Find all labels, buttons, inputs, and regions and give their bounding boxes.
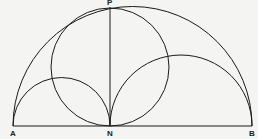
label-b: B <box>249 129 255 138</box>
semicircle-nb <box>110 55 252 126</box>
label-p: P <box>107 0 113 7</box>
label-n: N <box>107 129 113 138</box>
label-a: A <box>10 129 16 138</box>
semicircle-an <box>13 78 110 126</box>
semicircle-ab <box>13 6 252 126</box>
arbelos-diagram: A N B P <box>0 0 258 139</box>
